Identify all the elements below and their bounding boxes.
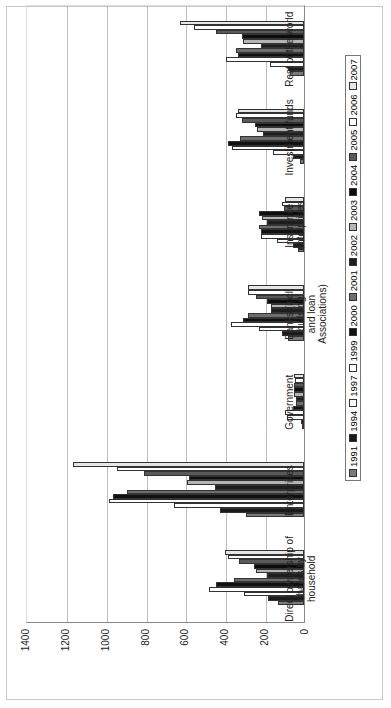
legend-item-2001: 2001 — [348, 270, 359, 301]
legend-swatch-icon — [349, 153, 357, 161]
y-tick-label: 200 — [259, 629, 270, 669]
bar-2003 — [257, 127, 304, 132]
gridline — [147, 6, 148, 622]
legend-item-2006: 2006 — [348, 94, 359, 125]
category-label-line: Direct ownership of — [284, 535, 295, 623]
bar-1994 — [301, 420, 304, 425]
legend-label: 2000 — [348, 305, 359, 326]
category-label-line: Government — [284, 358, 295, 446]
category-label-line: enterprises — [295, 182, 306, 270]
gridline — [67, 6, 68, 622]
legend-label: 2005 — [348, 130, 359, 151]
plot-area — [26, 5, 305, 623]
legend-label: 2007 — [348, 59, 359, 80]
bar-2002 — [296, 397, 304, 402]
bar-2004 — [255, 123, 304, 128]
category-label-line: Enterprises — [284, 446, 295, 534]
category-label-line: Insurance — [284, 182, 295, 270]
legend-label: 2006 — [348, 94, 359, 115]
legend-swatch-icon — [349, 434, 357, 442]
bar-2004 — [294, 388, 304, 393]
legend-item-1994: 1994 — [348, 411, 359, 442]
legend-item-1999: 1999 — [348, 340, 359, 371]
legend-item-2005: 2005 — [348, 130, 359, 161]
category-label: Investment funds — [284, 93, 295, 181]
bar-2005 — [144, 471, 304, 476]
category-label: Enterprises — [284, 446, 295, 534]
bar-2001 — [296, 401, 304, 406]
legend-swatch-icon — [349, 364, 357, 372]
legend-label: 2002 — [348, 235, 359, 256]
legend-item-2003: 2003 — [348, 200, 359, 231]
legend-item-2002: 2002 — [348, 235, 359, 266]
category-label: Direct ownership ofshares by household — [284, 535, 317, 623]
legend-swatch-icon — [349, 293, 357, 301]
legend-swatch-icon — [349, 82, 357, 90]
bar-2002 — [261, 44, 304, 49]
legend-swatch-icon — [349, 328, 357, 336]
y-tick-label: 600 — [179, 629, 190, 669]
y-tick-label: 1200 — [60, 629, 71, 669]
legend-swatch-icon — [349, 258, 357, 266]
legend-item-2000: 2000 — [348, 305, 359, 336]
legend-swatch-icon — [349, 118, 357, 126]
bar-2005 — [294, 383, 304, 388]
y-tick-label: 800 — [140, 629, 151, 669]
category-label: Government — [284, 358, 295, 446]
y-tick-label: 400 — [219, 629, 230, 669]
bar-1991 — [300, 159, 304, 164]
gridline — [226, 6, 227, 622]
y-tick-label: 1400 — [20, 629, 31, 669]
y-tick-label: 1000 — [100, 629, 111, 669]
y-tick-label: 0 — [299, 629, 310, 669]
gridline — [107, 6, 108, 622]
legend-swatch-icon — [349, 469, 357, 477]
legend-label: 1994 — [348, 411, 359, 432]
category-label-line: and loan — [306, 270, 317, 358]
legend-label: 1997 — [348, 376, 359, 397]
legend-swatch-icon — [349, 399, 357, 407]
legend-item-2007: 2007 — [348, 59, 359, 90]
chart: 1991199419971999200020012002200320042005… — [0, 0, 391, 708]
legend-label: 1999 — [348, 340, 359, 361]
bar-1991 — [302, 424, 304, 429]
bar-2001 — [127, 490, 304, 495]
category-label-line: Banks (incl. building — [284, 270, 306, 358]
gridline — [186, 6, 187, 622]
legend-label: 2001 — [348, 270, 359, 291]
category-label-line: Rest of the world — [284, 5, 295, 93]
bar-2000 — [113, 494, 304, 499]
legend-label: 2003 — [348, 200, 359, 221]
bar-2006 — [295, 378, 304, 383]
category-label: Rest of the world — [284, 5, 295, 93]
legend-item-1991: 1991 — [348, 446, 359, 477]
category-label: Insuranceenterprises — [284, 182, 306, 270]
category-label: Banks (incl. buildingand loanAssociation… — [284, 270, 328, 358]
legend: 1991199419971999200020012002200320042005… — [345, 55, 361, 481]
legend-item-2004: 2004 — [348, 165, 359, 196]
category-label-line: shares by household — [295, 535, 317, 623]
bar-2007 — [73, 462, 304, 467]
category-label-line: Investment funds — [284, 93, 295, 181]
category-label-line: Associations) — [317, 270, 328, 358]
legend-item-1997: 1997 — [348, 376, 359, 407]
bar-2007 — [294, 374, 304, 379]
bar-2003 — [294, 392, 304, 397]
bar-2006 — [117, 467, 304, 472]
legend-swatch-icon — [349, 223, 357, 231]
legend-label: 1991 — [348, 446, 359, 467]
legend-swatch-icon — [349, 188, 357, 196]
bar-1999 — [109, 499, 304, 504]
legend-label: 2004 — [348, 165, 359, 186]
bar-1991 — [246, 513, 304, 518]
